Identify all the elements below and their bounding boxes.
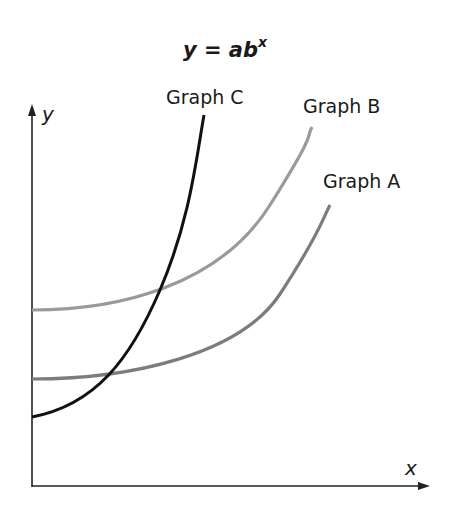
x-axis-arrow-icon	[418, 482, 430, 490]
graph-c-label: Graph C	[166, 86, 244, 108]
graph-a-label: Graph A	[323, 170, 400, 192]
y-axis-label: y	[42, 102, 54, 126]
graph-b-label: Graph B	[303, 95, 380, 117]
x-axis-label: x	[405, 456, 417, 480]
y-axis-arrow-icon	[28, 104, 36, 116]
graph-b-curve	[32, 127, 312, 310]
plot-area	[0, 0, 450, 515]
